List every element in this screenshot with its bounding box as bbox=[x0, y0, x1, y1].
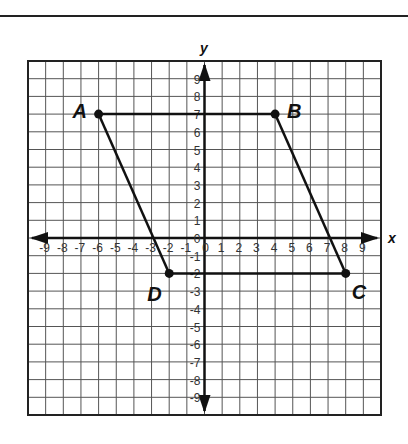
x-tick-label: -7 bbox=[75, 241, 86, 255]
y-tick-label: 8 bbox=[194, 90, 201, 104]
y-tick-label: -5 bbox=[190, 321, 201, 335]
y-tick-label: 1 bbox=[194, 214, 201, 228]
x-tick-label: -9 bbox=[39, 241, 50, 255]
y-axis-label: y bbox=[199, 40, 209, 56]
point-d bbox=[165, 269, 174, 278]
y-tick-label: -7 bbox=[190, 356, 201, 370]
x-tick-label: -8 bbox=[57, 241, 68, 255]
y-tick-label: 4 bbox=[194, 161, 201, 175]
y-tick-label: 5 bbox=[194, 144, 201, 158]
x-tick-label: -2 bbox=[163, 241, 174, 255]
y-tick-label: -3 bbox=[190, 285, 201, 299]
y-tick-label: -9 bbox=[190, 391, 201, 405]
x-tick-label: 8 bbox=[341, 241, 348, 255]
y-tick-label: 9 bbox=[194, 73, 201, 87]
point-a bbox=[94, 110, 103, 119]
y-tick-label: -6 bbox=[190, 338, 201, 352]
x-tick-label: 6 bbox=[306, 241, 313, 255]
x-tick-label: 5 bbox=[288, 241, 295, 255]
y-tick-label: 2 bbox=[194, 197, 201, 211]
x-tick-label: -4 bbox=[128, 241, 139, 255]
coordinate-plane: -9-8-7-6-5-4-3-2-11234567899876543210-1-… bbox=[0, 0, 408, 444]
y-tick-label: -1 bbox=[190, 250, 201, 264]
x-tick-label: -5 bbox=[110, 241, 121, 255]
x-tick-label: 1 bbox=[218, 241, 225, 255]
x-tick-label: -6 bbox=[92, 241, 103, 255]
point-label-c: C bbox=[352, 281, 367, 303]
point-c bbox=[341, 269, 350, 278]
x-tick-label: 2 bbox=[235, 241, 242, 255]
y-tick-label: 3 bbox=[194, 179, 201, 193]
x-tick-label: 4 bbox=[271, 241, 278, 255]
point-label-b: B bbox=[287, 100, 301, 122]
point-b bbox=[271, 110, 280, 119]
x-tick-label: 9 bbox=[359, 241, 366, 255]
y-tick-label: -4 bbox=[190, 303, 201, 317]
y-tick-label: 6 bbox=[194, 126, 201, 140]
y-tick-label: 0 bbox=[194, 232, 201, 246]
y-tick-label: -8 bbox=[190, 374, 201, 388]
x-tick-label: 3 bbox=[253, 241, 260, 255]
x-axis-label: x bbox=[387, 230, 397, 246]
point-label-a: A bbox=[72, 100, 87, 122]
x-tick-label: 7 bbox=[324, 241, 331, 255]
point-label-d: D bbox=[147, 283, 161, 305]
origin-x-tick-label: 0 bbox=[202, 241, 209, 255]
